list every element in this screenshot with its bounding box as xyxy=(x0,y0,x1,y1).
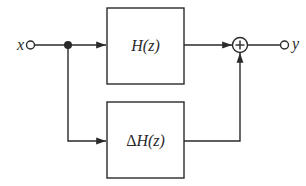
output-terminal xyxy=(281,41,289,49)
block-h-label: H(z) xyxy=(131,38,159,54)
branch-line xyxy=(68,45,106,141)
input-terminal xyxy=(27,41,35,49)
block-delta-h-text: H(z) xyxy=(136,132,164,149)
block-diagram-canvas xyxy=(0,0,306,186)
delta-prefix: Δ xyxy=(126,132,136,149)
output-label: y xyxy=(292,36,299,52)
input-label: x xyxy=(17,37,24,53)
block-delta-h-label: ΔH(z) xyxy=(126,133,165,149)
branch-point xyxy=(64,41,72,49)
bottom-output-line xyxy=(184,53,240,141)
